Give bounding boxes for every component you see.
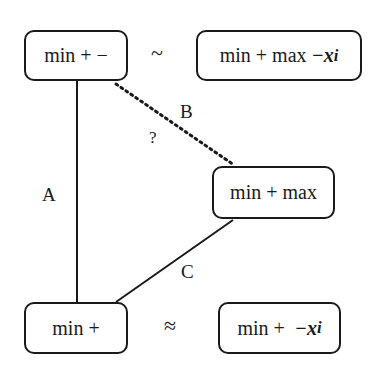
node-bottom-right-sub: i <box>317 318 322 337</box>
edge-a-label: A <box>42 184 56 206</box>
node-middle-right-text: min + max <box>230 181 317 204</box>
node-bottom-left: min + <box>24 302 128 354</box>
node-top-right: min + max −xi <box>196 30 362 81</box>
node-bottom-left-text: min + <box>52 317 99 340</box>
node-bottom-right: min + −xi <box>218 302 341 354</box>
approx-symbol: ≈ <box>164 313 176 339</box>
node-bottom-right-var: −x <box>295 317 317 340</box>
edge-c-label: C <box>181 261 194 283</box>
node-top-left-text: min + − <box>44 44 108 67</box>
node-top-right-var: −x <box>312 44 334 67</box>
edge-b-question-mark: ? <box>149 128 157 148</box>
edge-b-dotted-line <box>116 84 234 165</box>
edge-c-line <box>116 220 233 302</box>
node-bottom-right-text: min + <box>237 317 294 340</box>
similar-symbol: ~ <box>151 40 163 66</box>
edge-b-label: B <box>180 101 193 123</box>
node-top-right-text: min + max <box>220 44 312 67</box>
node-top-left: min + − <box>24 30 128 81</box>
node-middle-right: min + max <box>212 166 335 219</box>
node-top-right-sub: i <box>334 46 339 65</box>
